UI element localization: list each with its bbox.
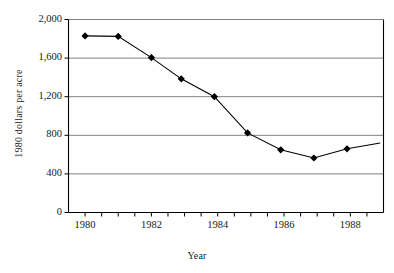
x-tick-label: 1986 (254, 220, 314, 231)
x-axis-tick-labels: 19801982198419861988 (0, 0, 394, 273)
x-tick-label: 1984 (188, 220, 248, 231)
x-tick-label: 1982 (121, 220, 181, 231)
x-tick-label: 1980 (55, 220, 115, 231)
y-axis-title: 1980 dollars per acre (13, 34, 24, 194)
x-tick-label: 1988 (320, 220, 380, 231)
chart-container: 04008001,2001,6002,000 19801982198419861… (0, 0, 394, 273)
x-axis-title: Year (0, 250, 394, 261)
